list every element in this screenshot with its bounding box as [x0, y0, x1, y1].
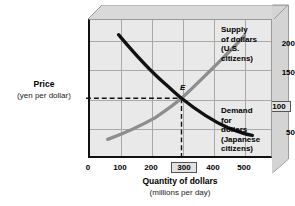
supply-label-line3: (U.S.	[221, 44, 257, 54]
demand-label-line5: citizens)	[221, 144, 260, 154]
x-tick-200: 200	[141, 163, 161, 172]
x-axis-title-sub: (millions per day)	[88, 187, 272, 198]
y-axis-title-sub: (yen per dollar)	[4, 90, 84, 102]
figure-container: Price (yen per dollar) 200 150 100 50 E …	[0, 0, 295, 206]
demand-label-line1: Demand	[221, 106, 260, 116]
x-tick-100: 100	[110, 163, 130, 172]
y-axis-title: Price (yen per dollar)	[4, 78, 84, 102]
demand-curve-label: Demand for dollars (Japanese citizens)	[221, 106, 260, 154]
frame-right-outline	[272, 4, 290, 176]
demand-label-line4: (Japanese	[221, 135, 260, 145]
supply-label-line4: citizens)	[221, 54, 257, 64]
supply-label-line2: of dollars	[221, 35, 257, 45]
supply-curve-label: Supply of dollars (U.S. citizens)	[221, 25, 257, 63]
equilibrium-label: E	[180, 84, 185, 92]
x-tick-400: 400	[203, 163, 223, 172]
frame-top-bevel	[88, 5, 288, 19]
x-tick-500: 500	[234, 163, 254, 172]
x-tick-0: 0	[80, 163, 96, 172]
x-tick-300-highlighted: 300	[171, 162, 197, 173]
demand-label-line2: for	[221, 116, 260, 126]
demand-label-line3: dollars	[221, 125, 260, 135]
y-axis-title-main: Price	[4, 78, 84, 90]
x-axis-title: Quantity of dollars (millions per day)	[88, 176, 272, 198]
supply-label-line1: Supply	[221, 25, 257, 35]
x-axis-title-main: Quantity of dollars	[88, 176, 272, 187]
